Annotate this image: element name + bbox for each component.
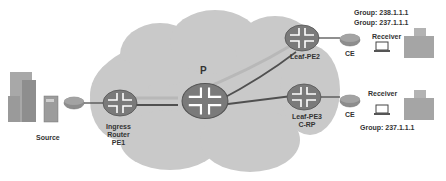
group-bottom: Group: 237.1.1.1	[360, 124, 414, 132]
leaf-pe3-router-icon	[287, 84, 321, 110]
ce-top-router-icon	[340, 34, 360, 46]
leaf-pe2-label: Leaf-PE2	[290, 53, 320, 61]
ce-top-label: CE	[345, 50, 355, 58]
source-building-icon	[8, 72, 36, 122]
ce-bottom-label: CE	[345, 111, 355, 119]
receiver-bottom-building-icon	[404, 90, 434, 120]
server-icon	[44, 96, 58, 122]
leaf-pe2-router-icon	[285, 25, 319, 51]
p-router-icon	[182, 83, 228, 118]
ingress-label-line3: PE1	[106, 139, 131, 147]
ingress-label: Ingress Router PE1	[106, 123, 131, 147]
receiver-bottom-laptop-icon	[374, 105, 390, 115]
group-top-line2: Group: 237.1.1.1	[354, 19, 408, 27]
ce-bottom-router-icon	[340, 95, 360, 107]
ingress-label-line1: Ingress	[106, 123, 131, 131]
leaf-pe3-label-line2: C-RP	[292, 121, 322, 129]
cloud-label: P	[200, 66, 207, 76]
receiver-top-label: Receiver	[372, 33, 401, 41]
receiver-bottom-label: Receiver	[368, 90, 397, 98]
ingress-router-icon	[103, 90, 137, 116]
source-label: Source	[36, 134, 60, 142]
leaf-pe3-label-line1: Leaf-PE3	[292, 113, 322, 121]
source-edge-router-icon	[64, 97, 84, 109]
ingress-label-line2: Router	[106, 131, 131, 139]
receiver-top-building-icon	[404, 28, 434, 58]
receiver-top-laptop-icon	[374, 42, 390, 52]
group-top-line1: Group: 238.1.1.1	[354, 9, 408, 17]
leaf-pe3-label: Leaf-PE3 C-RP	[292, 113, 322, 129]
